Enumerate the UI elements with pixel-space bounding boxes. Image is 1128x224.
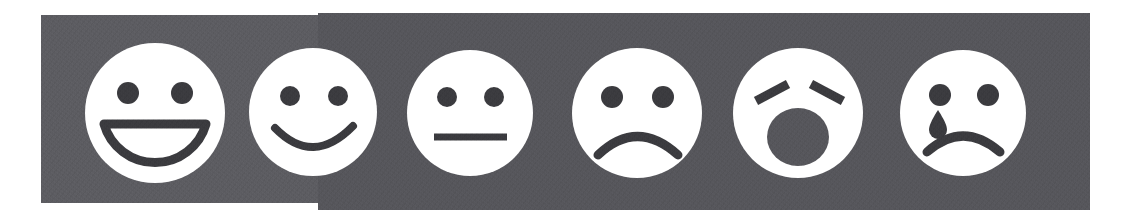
face-crying-eye-right xyxy=(977,84,999,106)
face-happy-head xyxy=(249,48,377,176)
face-very-happy-eye-left xyxy=(117,82,139,104)
face-neutral-head xyxy=(407,50,533,176)
face-happy[interactable] xyxy=(249,48,377,176)
face-very-happy[interactable] xyxy=(85,43,225,183)
face-crying[interactable] xyxy=(900,50,1026,176)
face-sad-eye-right xyxy=(652,86,674,108)
face-crying-eye-left xyxy=(929,84,951,106)
face-sad-head xyxy=(572,48,702,178)
face-very-happy-eye-right xyxy=(171,82,193,104)
face-neutral-eye-right xyxy=(484,87,504,107)
face-neutral[interactable] xyxy=(407,50,533,176)
face-sad[interactable] xyxy=(572,48,702,178)
face-distressed-mouth xyxy=(767,108,829,166)
smiley-face-rating-scale xyxy=(0,0,1128,224)
face-sad-eye-left xyxy=(601,86,623,108)
face-happy-eye-left xyxy=(280,86,300,106)
face-crying-head xyxy=(900,50,1026,176)
face-neutral-eye-left xyxy=(437,87,457,107)
faces-layer xyxy=(0,0,1128,224)
face-happy-eye-right xyxy=(328,86,348,106)
face-distressed[interactable] xyxy=(733,48,863,178)
